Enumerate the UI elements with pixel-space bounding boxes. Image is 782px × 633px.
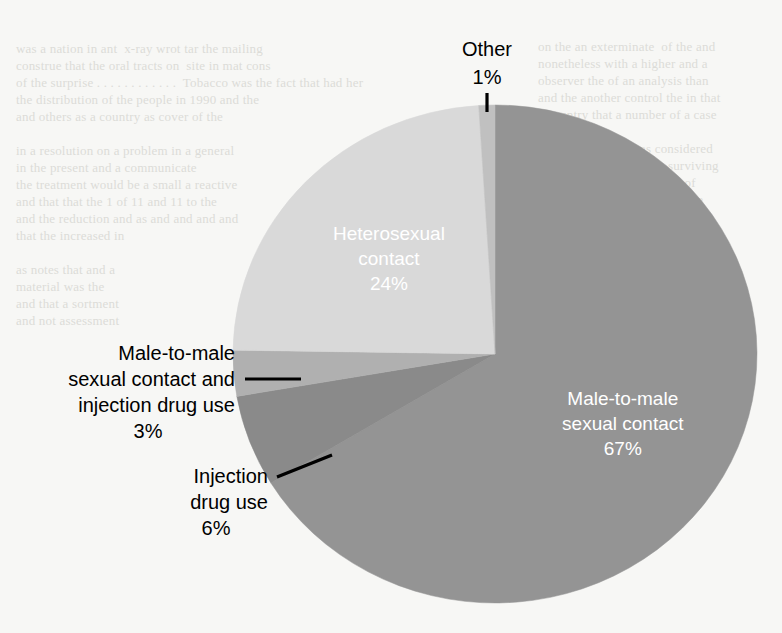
pie-label-heterosexual-contact-line-0: Heterosexual xyxy=(333,223,445,244)
callout-injection-drug-use-line-1: drug use xyxy=(190,491,268,513)
callout-msm-and-idu-line-0: Male-to-male xyxy=(118,342,235,364)
pie-slices-group xyxy=(233,105,757,603)
callout-msm-and-idu-value: 3% xyxy=(134,420,163,442)
pie-label-heterosexual-contact-line-1: contact xyxy=(358,248,420,269)
pie-label-male-to-male-sexual-contact-line-1: sexual contact xyxy=(562,413,684,434)
callout-msm-and-idu: Male-to-male sexual contact and injectio… xyxy=(68,342,235,442)
callout-injection-drug-use-line-0: Injection xyxy=(194,465,269,487)
callout-other-line-0: Other xyxy=(462,38,512,60)
callout-injection-drug-use: Injection drug use 6% xyxy=(190,465,268,539)
callout-msm-and-idu-line-1: sexual contact and xyxy=(68,368,235,390)
pie-chart-page: was a nation in ant x-ray wrot tar the m… xyxy=(0,0,782,633)
callout-injection-drug-use-value: 6% xyxy=(202,517,231,539)
callout-other-value: 1% xyxy=(473,66,502,88)
callout-msm-and-idu-line-2: injection drug use xyxy=(78,394,235,416)
pie-label-heterosexual-contact-line-2: 24% xyxy=(370,273,408,294)
callout-other: Other 1% xyxy=(462,38,512,88)
pie-label-male-to-male-sexual-contact-line-2: 67% xyxy=(604,438,642,459)
pie-label-male-to-male-sexual-contact-line-0: Male-to-male xyxy=(567,388,678,409)
pie-chart: Male-to-malesexual contact67%Heterosexua… xyxy=(0,0,782,633)
